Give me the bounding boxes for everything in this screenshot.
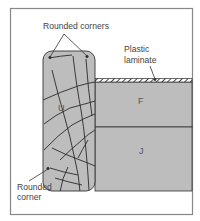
label-plastic-laminate-2: laminate [124, 55, 157, 65]
label-rounded-corner-1: Rounded [17, 182, 52, 192]
label-rounded-corner-2: corner [17, 192, 41, 202]
laminate-edge-diagram: U F J Rounded corners Plastic laminate R… [0, 0, 200, 221]
part-label-j: J [139, 146, 144, 156]
board-f [95, 82, 192, 127]
label-plastic-laminate-1: Plastic [124, 44, 150, 54]
board-j [95, 127, 192, 191]
plastic-laminate-strip [95, 79, 192, 83]
label-rounded-corners: Rounded corners [43, 21, 109, 31]
part-label-f: F [138, 96, 144, 106]
part-label-u: U [58, 103, 65, 113]
